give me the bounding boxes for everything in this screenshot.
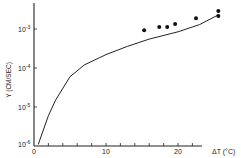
data-point — [157, 25, 161, 29]
y-axis-title: Y (CM/SEC) — [5, 62, 13, 98]
data-point — [216, 9, 220, 13]
data-point — [165, 25, 169, 29]
data-point — [142, 28, 146, 32]
chart: 10-3 10-4 10-5 10-6 0 10 20 ΔT (°C) Y (C… — [0, 0, 241, 158]
svg-text:10-4: 10-4 — [18, 63, 30, 72]
data-point — [173, 22, 177, 26]
model-curve — [38, 15, 218, 145]
data-points — [142, 9, 220, 32]
x-tick-labels: 0 10 20 — [32, 148, 182, 155]
x-tick-label-0: 0 — [32, 148, 36, 155]
x-tick-label-10: 10 — [102, 148, 110, 155]
svg-text:10-6: 10-6 — [18, 139, 30, 148]
x-tick-label-20: 20 — [174, 148, 182, 155]
data-point — [216, 14, 220, 18]
svg-text:10-5: 10-5 — [18, 102, 30, 111]
data-point — [194, 16, 198, 20]
y-tick-labels: 10-3 10-4 10-5 10-6 — [18, 24, 30, 148]
svg-text:10-3: 10-3 — [18, 24, 30, 33]
x-axis-title: ΔT (°C) — [212, 148, 235, 156]
